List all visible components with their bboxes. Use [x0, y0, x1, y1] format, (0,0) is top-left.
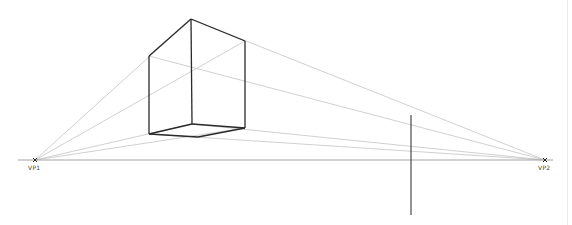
box-edge [192, 124, 245, 128]
vp2-guide-line [149, 134, 545, 160]
construction-lines [35, 19, 545, 160]
box-edge [191, 19, 192, 124]
vp1-label: VP1 [28, 164, 40, 171]
page-edge-line [567, 0, 568, 225]
box-edge [191, 19, 245, 41]
vp1-guide-line [35, 128, 245, 160]
perspective-diagram [0, 0, 572, 225]
vp2-guide-line [149, 56, 545, 160]
vp2-label: VP2 [538, 164, 550, 171]
box-edge [149, 124, 192, 134]
box [149, 19, 245, 137]
box-edge [149, 19, 191, 56]
vp2-guide-line [192, 124, 545, 160]
box-edge [198, 128, 245, 137]
box-edge [149, 134, 198, 137]
vp1-guide-line [35, 41, 245, 160]
